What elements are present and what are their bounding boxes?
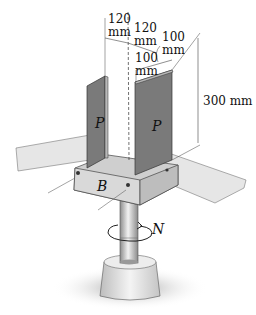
dim-mid-unit: mm [134, 34, 157, 48]
dim-right-width-unit: mm [162, 43, 185, 57]
rotation-label: N [151, 221, 165, 237]
dim-left-value: 120 [108, 12, 131, 26]
plate-left-label: P [94, 115, 105, 131]
dim-mid-value: 120 [134, 21, 157, 35]
bar-left [16, 135, 90, 171]
plate-right-label: P [151, 118, 162, 134]
leader-line-left [48, 178, 75, 193]
dim-inner-unit: mm [135, 64, 158, 78]
shaft [120, 195, 138, 265]
figure-diagram: N B P P 120 mm 120 [0, 0, 256, 315]
dim-right-width-value: 100 [162, 30, 185, 44]
diagram-canvas: N B P P 120 mm 120 [0, 0, 256, 315]
dim-left-unit: mm [108, 25, 131, 39]
block-label: B [96, 178, 107, 194]
dim-height: 300 mm [203, 94, 253, 108]
dim-inner-value: 100 [135, 51, 158, 65]
